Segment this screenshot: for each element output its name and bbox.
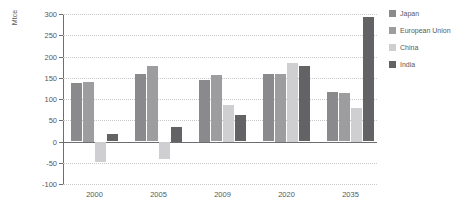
bar-india-2035 (363, 17, 374, 141)
y-tick-label: 200 (44, 52, 57, 61)
bar-japan-2035 (327, 92, 338, 142)
legend-item-india[interactable]: India (389, 61, 451, 68)
x-tick-label: 2005 (150, 190, 167, 199)
bar-china-2005 (159, 142, 170, 160)
x-tick-label: 2035 (342, 190, 359, 199)
legend-item-european-union[interactable]: European Union (389, 27, 451, 34)
bar-european-union-2000 (83, 82, 94, 142)
y-tick-label: 250 (44, 31, 57, 40)
bar-european-union-2009 (211, 75, 222, 141)
legend-label: India (400, 61, 415, 68)
y-tick-label: 50 (49, 116, 57, 125)
bar-european-union-2005 (147, 66, 158, 141)
legend-swatch-icon (389, 10, 396, 17)
plot-area: 300250200150100500-50-100 (63, 14, 377, 184)
legend-label: Japan (400, 10, 419, 17)
y-tick-label: 300 (44, 10, 57, 19)
bar-group (327, 14, 379, 184)
y-axis-label: Mtce (11, 0, 18, 40)
bar-china-2035 (351, 108, 362, 142)
bar-european-union-2035 (339, 93, 350, 141)
bar-japan-2020 (263, 74, 274, 141)
bar-china-2000 (95, 142, 106, 162)
bar-china-2020 (287, 63, 298, 142)
legend: JapanEuropean UnionChinaIndia (389, 10, 451, 68)
y-tick-label: 0 (53, 137, 57, 146)
y-tick--100 (59, 184, 63, 185)
legend-label: China (400, 44, 418, 51)
bar-group (199, 14, 251, 184)
legend-item-china[interactable]: China (389, 44, 451, 51)
bar-group (135, 14, 187, 184)
legend-swatch-icon (389, 61, 396, 68)
bar-india-2009 (235, 115, 246, 142)
y-tick-label: -50 (46, 158, 57, 167)
x-tick-label: 2020 (278, 190, 295, 199)
bar-japan-2009 (199, 80, 210, 142)
y-tick-label: 150 (44, 73, 57, 82)
chart-root: Mtce 300250200150100500-50-100 200020052… (0, 0, 471, 215)
bar-india-2005 (171, 127, 182, 142)
bar-european-union-2020 (275, 74, 286, 142)
bar-china-2009 (223, 105, 234, 141)
legend-item-japan[interactable]: Japan (389, 10, 451, 17)
bar-group (71, 14, 123, 184)
bar-japan-2000 (71, 83, 82, 141)
x-tick-label: 2000 (86, 190, 103, 199)
x-tick-label: 2009 (214, 190, 231, 199)
bar-india-2000 (107, 134, 118, 142)
y-tick-label: -100 (42, 180, 57, 189)
y-tick-label: 100 (44, 95, 57, 104)
bar-group (263, 14, 315, 184)
legend-swatch-icon (389, 44, 396, 51)
legend-label: European Union (400, 27, 451, 34)
bar-groups (63, 14, 377, 184)
gridline--100 (63, 184, 377, 185)
legend-swatch-icon (389, 27, 396, 34)
bar-india-2020 (299, 66, 310, 142)
bar-japan-2005 (135, 74, 146, 141)
